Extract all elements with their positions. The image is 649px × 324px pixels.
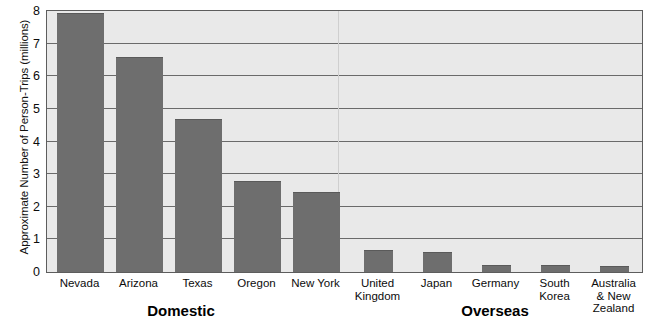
bar — [541, 265, 570, 272]
bar — [116, 57, 163, 272]
group-label: Overseas — [425, 302, 565, 319]
bar — [234, 181, 281, 272]
y-tick-label-7: 7 — [10, 38, 40, 50]
y-tick-label-5: 5 — [10, 103, 40, 115]
y-tick-label-2: 2 — [10, 201, 40, 213]
bar — [175, 119, 222, 272]
x-tick-label: Australia & New Zealand — [569, 277, 649, 315]
bar — [423, 252, 452, 272]
bar — [482, 265, 511, 272]
gridline-7 — [47, 43, 642, 44]
y-tick-label-4: 4 — [10, 136, 40, 148]
y-tick-label-6: 6 — [10, 70, 40, 82]
y-tick-label-1: 1 — [10, 233, 40, 245]
plot-area — [46, 10, 643, 273]
bar — [600, 266, 629, 272]
y-tick-label-3: 3 — [10, 168, 40, 180]
bar — [364, 250, 393, 272]
group-label: Domestic — [111, 302, 251, 319]
bar — [293, 192, 340, 272]
y-tick-label-8: 8 — [10, 5, 40, 17]
bar — [57, 13, 104, 272]
bar-chart: Approximate Number of Person-Trips (mill… — [0, 0, 649, 324]
